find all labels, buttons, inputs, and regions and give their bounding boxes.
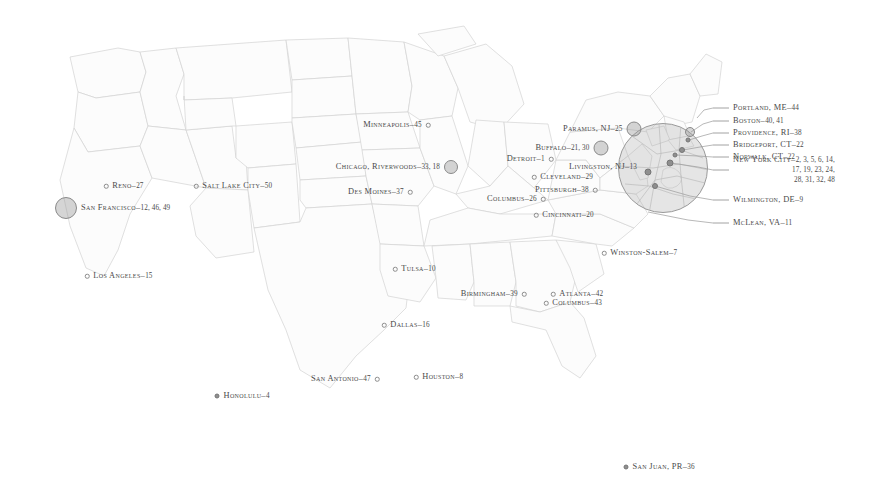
city-marker[interactable] bbox=[534, 213, 539, 218]
city-marker[interactable] bbox=[414, 375, 419, 380]
city-name: Paramus, NJ bbox=[563, 124, 611, 133]
city-marker[interactable] bbox=[541, 197, 546, 202]
city-numbers: 4 bbox=[266, 392, 270, 400]
city-marker[interactable] bbox=[382, 323, 387, 328]
city-marker[interactable] bbox=[104, 184, 109, 189]
callout-label: Wilmington, DE–9 bbox=[733, 195, 803, 206]
city-numbers: 8 bbox=[460, 373, 464, 381]
callout-numbers: 22 bbox=[796, 141, 803, 149]
inset-city-marker[interactable] bbox=[652, 183, 658, 189]
city-numbers: 7 bbox=[674, 249, 678, 257]
city-numbers: 12, 46, 49 bbox=[141, 204, 171, 212]
city-name: Salt Lake City bbox=[202, 181, 260, 190]
city-label: Chicago, Riverwoods–33, 18 bbox=[336, 162, 440, 173]
city-numbers: 36 bbox=[687, 463, 694, 471]
city-marker[interactable] bbox=[194, 184, 199, 189]
city-name: Tulsa bbox=[401, 264, 424, 273]
city-numbers: 26 bbox=[529, 195, 536, 203]
city-label: Houston–8 bbox=[422, 372, 463, 383]
city-name: Minneapolis bbox=[363, 120, 410, 129]
city-name: Livingston, NJ bbox=[569, 162, 625, 171]
city-marker[interactable] bbox=[549, 157, 554, 162]
inset-city-marker[interactable] bbox=[645, 169, 652, 176]
city-bubble[interactable] bbox=[444, 160, 458, 174]
city-marker[interactable] bbox=[602, 251, 607, 256]
callout-first-line: Boston–40, 41 bbox=[733, 116, 784, 125]
city-marker[interactable] bbox=[393, 267, 398, 272]
city-name: Detroit bbox=[507, 154, 537, 163]
city-name: San Francisco bbox=[81, 203, 136, 212]
city-name: Houston bbox=[422, 372, 455, 381]
city-label: Pittsburgh–38 bbox=[535, 185, 589, 196]
city-label: Paramus, NJ–25 bbox=[563, 124, 623, 135]
city-label: Des Moines–37 bbox=[348, 187, 404, 198]
city-marker[interactable] bbox=[522, 292, 527, 297]
city-name: Dallas bbox=[390, 320, 417, 329]
city-numbers: 10 bbox=[428, 265, 435, 273]
callout-label: New York City–2, 3, 5, 6, 14,17, 19, 23,… bbox=[733, 155, 835, 185]
city-numbers: 50 bbox=[265, 182, 272, 190]
us-city-map: Reno–27Salt Lake City–50San Francisco–12… bbox=[0, 0, 884, 494]
city-name: Winston-Salem bbox=[610, 248, 669, 257]
city-label: Honolulu–4 bbox=[224, 391, 270, 402]
city-label: Minneapolis–45 bbox=[363, 120, 422, 131]
city-marker[interactable] bbox=[85, 274, 90, 279]
city-name: Columbus bbox=[552, 298, 590, 307]
city-name: Cincinnati bbox=[542, 210, 581, 219]
callout-numbers: 40, 41 bbox=[765, 117, 784, 125]
callout-city-name: Wilmington, DE bbox=[733, 195, 795, 204]
city-label: Winston-Salem–7 bbox=[610, 248, 677, 259]
callout-label: Providence, RI–38 bbox=[733, 128, 802, 139]
city-numbers: 20 bbox=[586, 211, 593, 219]
city-marker[interactable] bbox=[544, 301, 549, 306]
city-numbers: 38 bbox=[581, 186, 588, 194]
city-label: San Antonio–47 bbox=[311, 374, 371, 385]
city-numbers: 27 bbox=[136, 182, 143, 190]
callout-city-name: Bridgeport, CT bbox=[733, 140, 792, 149]
city-bubble[interactable] bbox=[55, 197, 77, 219]
city-numbers: 29 bbox=[586, 173, 593, 181]
city-numbers: 42 bbox=[596, 290, 603, 298]
city-name: Chicago, Riverwoods bbox=[336, 162, 417, 171]
inset-city-marker[interactable] bbox=[685, 127, 695, 137]
callout-first-line: Wilmington, DE–9 bbox=[733, 195, 803, 204]
city-marker[interactable] bbox=[215, 394, 220, 399]
inset-city-marker[interactable] bbox=[679, 147, 685, 153]
city-numbers: 45 bbox=[414, 121, 421, 129]
city-numbers: 15 bbox=[145, 272, 152, 280]
city-numbers: 13 bbox=[630, 163, 637, 171]
city-numbers: 39 bbox=[510, 290, 517, 298]
city-marker[interactable] bbox=[551, 292, 556, 297]
callout-label: Portland, ME–44 bbox=[733, 103, 799, 114]
city-marker[interactable] bbox=[375, 377, 380, 382]
inset-city-marker[interactable] bbox=[673, 153, 678, 158]
city-name: Los Angeles bbox=[93, 271, 140, 280]
city-label: Los Angeles–15 bbox=[93, 271, 152, 282]
city-marker[interactable] bbox=[408, 190, 413, 195]
inset-city-marker[interactable] bbox=[686, 138, 691, 143]
city-numbers: 33, 18 bbox=[421, 163, 440, 171]
city-marker[interactable] bbox=[532, 175, 537, 180]
callout-numbers: 11 bbox=[785, 219, 792, 227]
city-numbers: 21, 30 bbox=[571, 144, 590, 152]
city-marker[interactable] bbox=[426, 123, 431, 128]
callout-city-name: McLean, VA bbox=[733, 218, 780, 227]
city-numbers: 47 bbox=[363, 375, 370, 383]
callout-city-name: Providence, RI bbox=[733, 128, 790, 137]
callout-city-name: Portland, ME bbox=[733, 103, 787, 112]
city-label: Columbus–26 bbox=[487, 194, 537, 205]
city-marker[interactable] bbox=[624, 465, 629, 470]
city-bubble[interactable] bbox=[627, 122, 642, 137]
city-name: San Juan, PR bbox=[633, 462, 683, 471]
city-marker[interactable] bbox=[593, 188, 598, 193]
city-bubble[interactable] bbox=[594, 141, 609, 156]
callout-numbers: 2, 3, 5, 6, 14, bbox=[796, 156, 835, 164]
inset-city-marker[interactable] bbox=[667, 160, 674, 167]
callout-city-name: New York City bbox=[733, 155, 791, 164]
callout-numbers-continued: 28, 31, 32, 48 bbox=[733, 175, 835, 185]
callout-first-line: Providence, RI–38 bbox=[733, 128, 802, 137]
city-name: Honolulu bbox=[224, 391, 262, 400]
city-name: Buffalo bbox=[535, 143, 566, 152]
callout-first-line: Portland, ME–44 bbox=[733, 103, 799, 112]
us-basemap bbox=[0, 0, 884, 494]
